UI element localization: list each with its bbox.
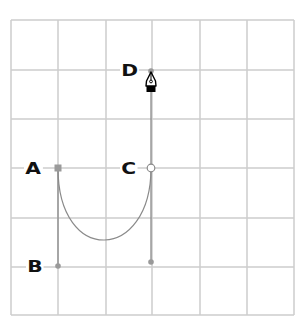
point-label-b: B [26, 260, 44, 275]
anchor-point-c[interactable] [147, 164, 155, 172]
bezier-diagram [0, 0, 298, 325]
bezier-curve [58, 168, 151, 240]
point-label-d: D [120, 64, 140, 79]
point-label-c: C [120, 162, 138, 177]
handle-point-b[interactable] [55, 263, 61, 269]
point-label-a: A [24, 162, 42, 177]
anchor-point-a[interactable] [55, 165, 62, 172]
handle-point-c2[interactable] [148, 259, 154, 265]
pen-tool-cursor-icon [146, 72, 156, 92]
